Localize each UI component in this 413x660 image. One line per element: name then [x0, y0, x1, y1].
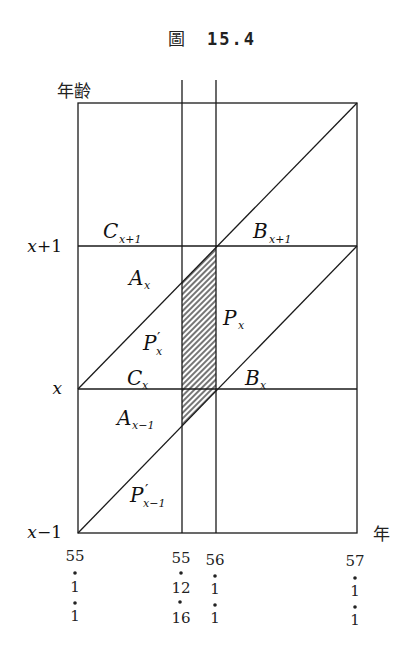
svg-text:x: x — [142, 379, 149, 392]
y-axis-label: 年齢 — [57, 81, 91, 101]
y-tick-x-plus-1: x+1 — [27, 236, 62, 256]
lexis-diagram: 圖 15.4 年齢 年 x+1 x x−1 55 1 1 55 12 16 56… — [0, 0, 413, 660]
svg-text:P: P — [142, 331, 157, 355]
region-label-c-x: C x — [127, 366, 149, 392]
svg-text:1: 1 — [350, 611, 360, 629]
x-tick-57-1-1: 57 1 1 — [345, 552, 364, 629]
svg-text:x: x — [260, 379, 267, 392]
svg-text:x−1: x−1 — [143, 497, 165, 510]
svg-text:x−1: x−1 — [132, 419, 154, 432]
svg-text:57: 57 — [345, 552, 364, 570]
svg-text:C: C — [103, 219, 118, 243]
region-label-a-x-minus-1: A x−1 — [115, 406, 154, 432]
svg-text:1: 1 — [210, 580, 220, 598]
svg-text:A: A — [115, 406, 131, 430]
date-separator-dot — [73, 571, 77, 575]
x-tick-56-1-1: 56 1 1 — [205, 551, 224, 627]
figure-title: 圖 15.4 — [168, 29, 256, 49]
svg-text:1: 1 — [70, 607, 80, 625]
date-separator-dot — [353, 576, 357, 580]
svg-text:x: x — [238, 319, 245, 332]
svg-text:1: 1 — [70, 578, 80, 596]
svg-text:x: x — [156, 345, 163, 358]
x-tick-55-12-16: 55 12 16 — [171, 549, 190, 627]
svg-text:1: 1 — [350, 582, 360, 600]
figure-title-number: 15.4 — [207, 29, 256, 49]
date-separator-dot — [353, 605, 357, 609]
svg-text:B: B — [244, 366, 260, 390]
region-label-p-x: P x — [222, 306, 245, 332]
x-tick-55-1-1: 55 1 1 — [65, 547, 84, 625]
region-label-p-prime-x: P ′ x — [142, 329, 163, 358]
y-tick-x: x — [52, 378, 62, 398]
svg-text:C: C — [127, 366, 142, 390]
svg-text:55: 55 — [171, 549, 190, 567]
svg-text:P: P — [129, 483, 144, 507]
svg-text:x: x — [144, 279, 151, 292]
region-label-p-prime-x-minus-1: P ′ x−1 — [129, 481, 165, 510]
region-label-c-x-plus-1: C x+1 — [103, 219, 141, 246]
svg-text:16: 16 — [171, 609, 190, 627]
region-label-b-x: B x — [244, 366, 267, 392]
date-separator-dot — [179, 571, 183, 575]
diagram-frame — [78, 103, 357, 533]
svg-text:x+1: x+1 — [269, 233, 291, 246]
svg-text:B: B — [252, 219, 268, 243]
svg-text:56: 56 — [205, 551, 224, 569]
svg-text:1: 1 — [210, 609, 220, 627]
figure-title-prefix: 圖 — [168, 29, 185, 49]
svg-text:A: A — [127, 266, 143, 290]
svg-text:P: P — [222, 306, 237, 330]
date-separator-dot — [73, 601, 77, 605]
hatched-region — [182, 248, 216, 427]
region-label-b-x-plus-1: B x+1 — [252, 219, 291, 246]
date-separator-dot — [213, 574, 217, 578]
y-tick-x-minus-1: x−1 — [27, 522, 62, 542]
region-label-a-x: A x — [127, 266, 151, 292]
svg-text:55: 55 — [65, 547, 84, 565]
date-separator-dot — [213, 603, 217, 607]
date-separator-dot — [178, 600, 182, 604]
svg-text:12: 12 — [171, 579, 190, 597]
svg-text:x+1: x+1 — [119, 233, 141, 246]
x-axis-label: 年 — [373, 524, 390, 544]
